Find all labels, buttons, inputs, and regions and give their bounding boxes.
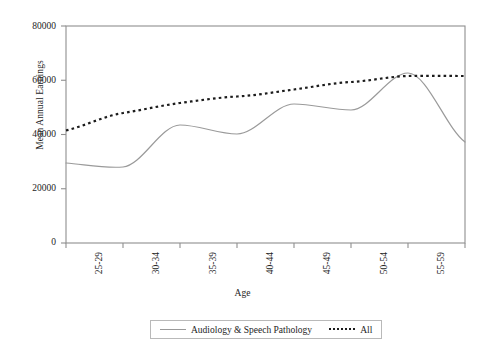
legend-solid-line-icon <box>160 326 186 334</box>
chart-figure: Mean Annual Earnings 80000 60000 40000 2… <box>0 0 485 353</box>
x-axis-tick-labels: 25-29 30-34 35-39 40-44 45-49 50-54 55-5… <box>0 0 485 353</box>
legend-dotted-line-icon <box>329 326 355 334</box>
legend-entry-audiology-speech-pathology: Audiology & Speech Pathology <box>160 325 312 335</box>
legend-entry-all: All <box>329 325 372 335</box>
chart-legend: Audiology & Speech Pathology All <box>150 320 382 339</box>
legend-label: All <box>360 325 372 335</box>
legend-label: Audiology & Speech Pathology <box>191 325 312 335</box>
x-axis-title: Age <box>0 288 485 298</box>
